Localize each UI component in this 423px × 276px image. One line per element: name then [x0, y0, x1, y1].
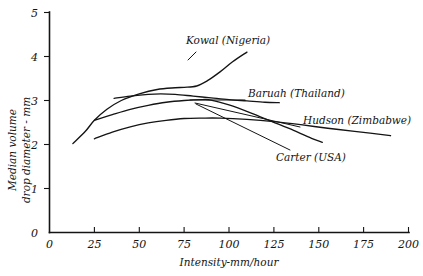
x-tick-label-100: 100	[219, 238, 240, 251]
x-tick-label-150: 150	[308, 238, 329, 251]
x-tick-label-75: 75	[177, 238, 191, 251]
y-tick-label-0: 0	[31, 227, 38, 240]
y-axis-title-line2: drop diameter - mm	[20, 97, 32, 203]
x-tick-label-0: 0	[46, 238, 53, 251]
series-label-hudson: Hudson (Zimbabwe)	[302, 114, 411, 126]
series-curve-kowal	[73, 52, 247, 144]
chart-plot-area: 5 4 3 2 1 0 0 25 50 75 100 125 150 175 2…	[0, 0, 423, 276]
x-tick-label-200: 200	[397, 238, 419, 251]
x-tick-label-25: 25	[86, 238, 101, 251]
x-tick-label-125: 125	[263, 238, 284, 251]
series-label-kowal: Kowal (Nigeria)	[185, 34, 270, 46]
x-axis-title: Intensity-mm/hour	[179, 256, 280, 268]
x-axis-ticks	[94, 227, 408, 233]
series-label-carter: Carter (USA)	[276, 151, 346, 163]
x-axis-tick-labels: 0 25 50 75 100 125 150 175 200	[46, 238, 419, 251]
series-label-baruah: Baruah (Thailand)	[247, 87, 345, 99]
leader-line-carter	[196, 104, 290, 150]
y-tick-label-3: 3	[31, 95, 38, 108]
y-tick-label-1: 1	[31, 183, 38, 196]
leader-line-hudson	[195, 103, 300, 127]
y-axis-title-line1: Median volume	[6, 109, 18, 192]
y-axis-ticks	[44, 13, 50, 189]
chart-figure: 5 4 3 2 1 0 0 25 50 75 100 125 150 175 2…	[0, 0, 423, 276]
x-tick-label-175: 175	[353, 238, 374, 251]
leader-line-kowal	[188, 52, 196, 60]
y-tick-label-4: 4	[30, 51, 38, 64]
y-tick-label-5: 5	[31, 7, 38, 20]
x-tick-label-50: 50	[132, 238, 146, 251]
